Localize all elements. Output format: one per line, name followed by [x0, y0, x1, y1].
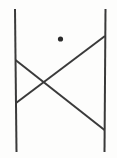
right-vertical-line [105, 9, 106, 152]
line-drawing-figure [0, 0, 117, 158]
figure-background [0, 0, 117, 158]
dot-marker [58, 36, 63, 41]
figure-container: Two near-vertical lines form the left an… [0, 0, 117, 158]
